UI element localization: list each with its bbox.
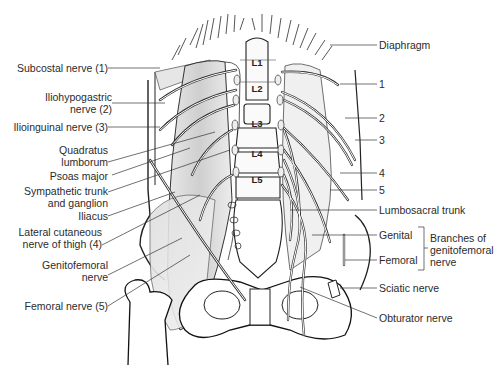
label-branches-genitofemoral-line1: Branches of — [430, 232, 486, 244]
label-ilioinguinal-nerve: Ilioinguinal nerve (3) — [13, 121, 108, 133]
label-genitofemoral-nerve-line1: Genitofemoral — [42, 259, 108, 271]
label-diaphragm: Diaphragm — [379, 39, 430, 51]
label-genitofemoral-nerve-line2: nerve — [82, 271, 108, 283]
label-number-2: 2 — [379, 112, 385, 124]
vertebra-label: L1 — [251, 57, 263, 68]
label-iliacus: Iliacus — [78, 210, 108, 222]
vertebra-label: L5 — [251, 174, 263, 185]
anatomy-figure: L1 L2 L3 L4 L5 — [0, 0, 504, 383]
label-quadratus-lumborum-line2: lumborum — [61, 156, 108, 168]
vertebra-label: L4 — [251, 148, 263, 159]
label-lateral-cutaneous-nerve-line1: Lateral cutaneous — [19, 226, 102, 238]
label-number-4: 4 — [379, 167, 385, 179]
label-branches-genitofemoral-line3: nerve — [430, 256, 456, 268]
label-quadratus-lumborum-line1: Quadratus — [59, 144, 108, 156]
label-number-3: 3 — [379, 134, 385, 146]
label-number-1: 1 — [379, 78, 385, 90]
label-sympathetic-trunk-line1: Sympathetic trunk — [24, 185, 108, 197]
label-iliohypogastric-nerve-line1: Iliohypogastric — [45, 91, 112, 103]
label-number-5: 5 — [379, 184, 385, 196]
label-genital-branch: Genital — [379, 229, 412, 241]
vertebra-label: L2 — [251, 83, 262, 94]
vertebra-label: L3 — [251, 118, 262, 129]
label-lumbosacral-trunk: Lumbosacral trunk — [379, 204, 465, 216]
label-sympathetic-trunk-line2: and ganglion — [48, 197, 108, 209]
label-lateral-cutaneous-nerve-line2: nerve of thigh (4) — [23, 238, 102, 250]
label-femoral-branch: Femoral — [379, 254, 418, 266]
label-psoas-major: Psoas major — [50, 170, 108, 182]
label-obturator-nerve: Obturator nerve — [379, 312, 453, 324]
label-subcostal-nerve: Subcostal nerve (1) — [17, 62, 108, 74]
label-branches-genitofemoral-line2: genitofemoral — [430, 244, 494, 256]
label-femoral-nerve: Femoral nerve (5) — [25, 300, 108, 312]
label-iliohypogastric-nerve-line2: nerve (2) — [70, 103, 112, 115]
label-sciatic-nerve: Sciatic nerve — [379, 282, 439, 294]
